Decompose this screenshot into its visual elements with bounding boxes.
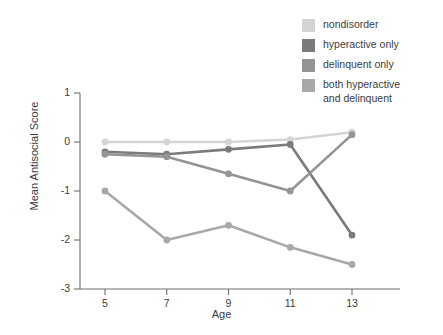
data-point-marker	[349, 131, 356, 138]
legend-item: both hyperactive and delinquent	[302, 78, 443, 105]
data-point-marker	[102, 151, 109, 158]
legend-item-label: delinquent only	[323, 58, 394, 72]
data-point-marker	[225, 139, 232, 146]
legend-item: hyperactive only	[302, 38, 443, 52]
legend-swatch-icon	[302, 39, 315, 52]
y-tick-label: 1	[46, 86, 70, 98]
data-point-marker	[287, 244, 294, 251]
data-point-marker	[225, 170, 232, 177]
data-point-marker	[102, 188, 109, 195]
y-axis-title: Mean Antisocial Score	[28, 86, 40, 226]
data-point-marker	[287, 141, 294, 148]
y-tick-label: 0	[46, 135, 70, 147]
data-point-marker	[163, 237, 170, 244]
y-tick-label: -3	[46, 282, 70, 294]
y-tick-label: -2	[46, 233, 70, 245]
line-chart: 10-1-2-3 5791113 Mean Antisocial Score A…	[0, 0, 443, 335]
legend-item: nondisorder	[302, 18, 443, 32]
legend-swatch-icon	[302, 79, 315, 92]
legend-item: delinquent only	[302, 58, 443, 72]
legend: nondisorder hyperactive only delinquent …	[302, 18, 443, 111]
y-tick-marks	[74, 93, 80, 289]
data-point-marker	[163, 139, 170, 146]
data-point-marker	[102, 139, 109, 146]
data-point-marker	[349, 232, 356, 239]
data-point-marker	[225, 222, 232, 229]
data-point-marker	[225, 146, 232, 153]
legend-item-label: nondisorder	[323, 18, 378, 32]
legend-swatch-icon	[302, 19, 315, 32]
x-tick-marks	[105, 289, 352, 295]
legend-item-label: hyperactive only	[323, 38, 399, 52]
series-markers	[102, 129, 356, 268]
legend-item-label: both hyperactive and delinquent	[323, 78, 400, 105]
data-point-marker	[349, 261, 356, 268]
y-tick-label: -1	[46, 184, 70, 196]
x-axis-title: Age	[0, 308, 443, 320]
data-point-marker	[287, 188, 294, 195]
legend-swatch-icon	[302, 59, 315, 72]
data-point-marker	[163, 153, 170, 160]
axis-lines	[80, 93, 400, 289]
